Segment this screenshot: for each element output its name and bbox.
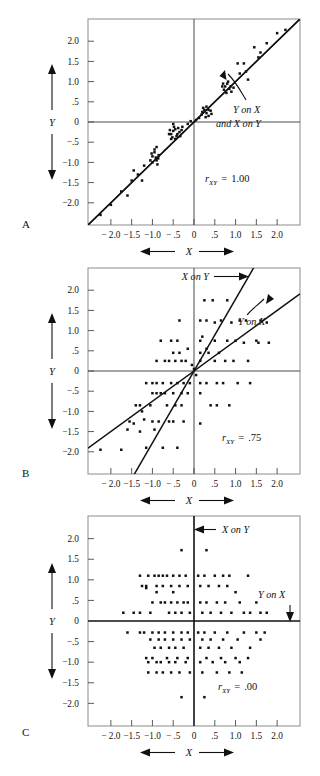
data-point (164, 638, 167, 641)
data-point (184, 574, 187, 577)
data-point (257, 341, 260, 344)
data-point (182, 382, 185, 385)
data-point (243, 612, 246, 615)
data-point (120, 449, 123, 452)
data-point (168, 647, 171, 650)
data-point (211, 299, 214, 302)
data-point (151, 420, 154, 423)
data-point (238, 72, 241, 75)
x-tick-label: 1.5 (251, 479, 263, 489)
data-point (169, 129, 172, 132)
data-point (265, 321, 268, 324)
data-point (229, 85, 232, 88)
data-point (214, 574, 217, 577)
data-point (259, 612, 262, 615)
data-point (155, 671, 158, 674)
data-point (170, 138, 173, 141)
data-point (199, 585, 202, 588)
data-point (175, 135, 178, 138)
data-point (172, 123, 175, 126)
data-point (214, 339, 217, 342)
data-point (216, 671, 219, 674)
x-tick-label: 1.0 (230, 230, 242, 240)
y-tick-label: 2.0 (67, 285, 79, 295)
y-tick-label: −2.0 (62, 447, 79, 457)
y-axis-arrowhead-up (48, 313, 56, 323)
data-point (151, 657, 154, 660)
x-tick-label: .5 (211, 230, 218, 240)
annotation-y-on-x: Y on X (258, 589, 286, 600)
y-tick-label: −.5 (67, 137, 80, 147)
data-point (230, 612, 233, 615)
y-tick-label: −1.0 (62, 158, 79, 168)
data-point (176, 446, 179, 449)
data-point (155, 591, 158, 594)
data-point (174, 360, 177, 363)
data-point (241, 671, 244, 674)
y-tick-label: −2.0 (62, 198, 79, 208)
data-point (174, 647, 177, 650)
data-point (174, 612, 177, 615)
data-point (180, 404, 183, 407)
data-point (210, 113, 213, 116)
data-point (159, 339, 162, 342)
data-point (228, 88, 231, 91)
data-point (236, 62, 239, 65)
data-point (257, 56, 260, 59)
data-point (168, 133, 171, 136)
data-point (226, 339, 229, 342)
y-axis-arrowhead-up (48, 563, 56, 573)
data-point (200, 113, 203, 116)
data-point (120, 190, 123, 193)
data-point (203, 631, 206, 634)
data-point (147, 574, 150, 577)
data-point (187, 392, 190, 395)
data-point (203, 299, 206, 302)
y-axis-label: Y (49, 616, 56, 627)
data-point (199, 352, 202, 355)
data-point (187, 631, 190, 634)
data-point (176, 601, 179, 604)
data-point (216, 601, 219, 604)
y-tick-label: −1.5 (62, 427, 79, 437)
data-point (247, 574, 250, 577)
data-point (214, 360, 217, 363)
data-point (151, 382, 154, 385)
data-point (166, 574, 169, 577)
y-tick-label: −1.0 (62, 407, 79, 417)
annotation-arrowhead-y-on-x (266, 294, 274, 304)
data-point (173, 126, 176, 129)
x-tick-label: −1.5 (123, 230, 140, 240)
data-point (150, 152, 153, 155)
data-point (199, 422, 202, 425)
data-point (162, 382, 165, 385)
annotation-y-on-x: Y on X (238, 316, 266, 327)
data-point (172, 392, 175, 395)
x-tick-label: .5 (211, 731, 218, 741)
data-point (168, 612, 171, 615)
correlation-label: rXY=.75 (222, 432, 261, 446)
data-point (139, 430, 142, 433)
data-point (178, 352, 181, 355)
data-point (191, 364, 194, 367)
data-point (201, 671, 204, 674)
y-tick-label: 2.0 (67, 534, 79, 544)
y-tick-label: 1.5 (67, 57, 79, 67)
data-point (203, 696, 206, 699)
x-axis-arrowhead-left (140, 749, 150, 757)
data-point (151, 155, 154, 158)
annotation-arrowhead-x-on-y (194, 526, 204, 534)
data-point (222, 82, 225, 85)
data-point (126, 428, 129, 431)
annotation-y-on-x: Y on X (233, 104, 261, 115)
data-point (222, 638, 225, 641)
x-axis-arrowhead-right (224, 749, 234, 757)
data-point (172, 574, 175, 577)
y-axis-arrowhead-down (48, 170, 56, 180)
data-point (176, 382, 179, 385)
data-point (172, 420, 175, 423)
data-point (149, 612, 152, 615)
data-point (151, 392, 154, 395)
data-point (247, 360, 250, 363)
data-point (205, 382, 208, 385)
